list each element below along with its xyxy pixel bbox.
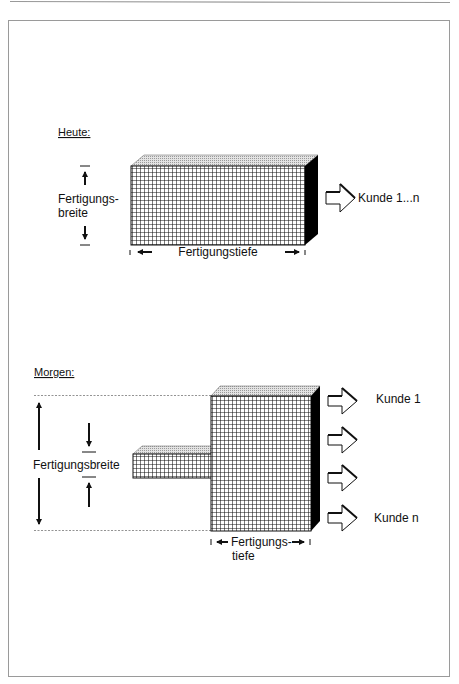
box-front-face: [131, 166, 305, 245]
morgen-heading: Morgen:: [34, 366, 74, 378]
tall-box-top-face: [211, 386, 320, 396]
width-label-line1: Fertigungs-: [58, 192, 119, 206]
box-side-face: [305, 155, 318, 245]
depth-label-line1: Fertigungs-: [231, 535, 292, 549]
small-box-front-face: [133, 454, 212, 478]
top-rule: [10, 2, 450, 3]
customer-first-label: Kunde 1: [376, 392, 421, 406]
customer-arrow-3-icon: [328, 465, 357, 491]
width-label-line2: breite: [58, 206, 88, 220]
heute-section: Heute: Fertigungs- breite Fertigungstief…: [58, 126, 419, 259]
tall-box-front-face: [211, 396, 311, 531]
content-frame: [9, 21, 450, 677]
depth-label: Fertigungstiefe: [178, 245, 258, 259]
tall-box-side-face: [311, 386, 320, 531]
diagram-canvas: Heute: Fertigungs- breite Fertigungstief…: [0, 0, 459, 684]
width-label: Fertigungsbreite: [33, 458, 120, 472]
customer-arrow-icon: [326, 184, 355, 212]
heute-heading: Heute:: [58, 126, 90, 138]
customer-last-label: Kunde n: [374, 511, 419, 525]
customer-arrow-1-icon: [328, 388, 357, 414]
customer-arrow-2-icon: [328, 427, 357, 453]
depth-label-line2: tiefe: [232, 549, 255, 563]
customer-arrow-4-icon: [328, 505, 357, 531]
morgen-section: Morgen: Fertigungsbreite Fertigungs- tie…: [33, 366, 421, 563]
customer-label: Kunde 1...n: [358, 191, 419, 205]
box-top-face: [131, 155, 318, 166]
small-box-top-face: [133, 446, 212, 454]
